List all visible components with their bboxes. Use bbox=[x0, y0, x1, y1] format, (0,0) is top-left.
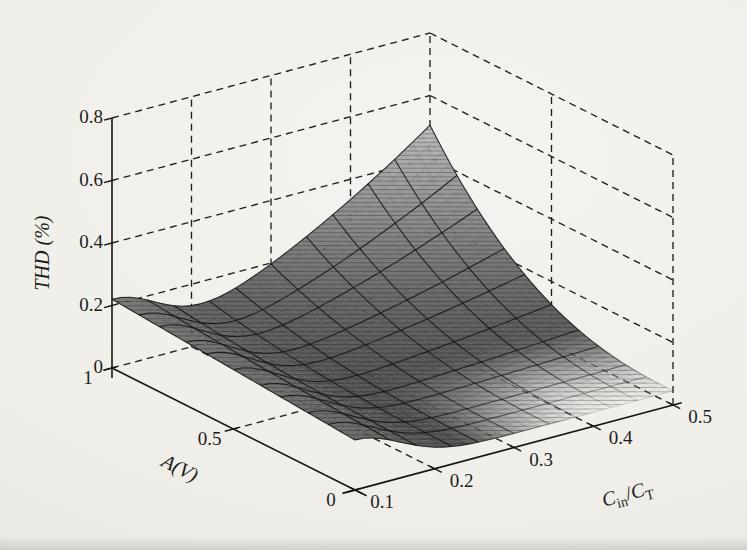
surface-mesh bbox=[112, 125, 673, 447]
z-tick-label-3: 0.6 bbox=[79, 169, 103, 190]
x-tick-label-4: 0.5 bbox=[688, 406, 712, 427]
x-tick-label-3: 0.4 bbox=[609, 427, 633, 448]
x-tick-label-2: 0.3 bbox=[529, 449, 553, 470]
y-tick-label-2: 0 bbox=[326, 489, 336, 510]
y-tick-label-1: 0.5 bbox=[198, 428, 222, 449]
z-tick-label-1: 0.2 bbox=[79, 294, 103, 315]
z-tick-label-0: 0 bbox=[94, 356, 104, 377]
scanned-figure-page: 00.20.40.60.810.500.10.20.30.40.5THD (%)… bbox=[0, 0, 747, 550]
x-axis-title-part-4: T bbox=[644, 486, 657, 503]
z-tick-label-4: 0.8 bbox=[79, 106, 103, 127]
x-tick-label-0: 0.1 bbox=[370, 491, 394, 512]
x-axis-title: Cin/CT bbox=[599, 476, 656, 515]
z-axis-title: THD (%) bbox=[31, 215, 54, 290]
thd-surface-plot: 00.20.40.60.810.500.10.20.30.40.5THD (%)… bbox=[0, 0, 747, 550]
y-tick-label-0: 1 bbox=[83, 367, 93, 388]
x-tick-label-1: 0.2 bbox=[450, 470, 474, 491]
y-axis-title: A(V) bbox=[156, 448, 202, 487]
z-tick-label-2: 0.4 bbox=[79, 231, 103, 252]
